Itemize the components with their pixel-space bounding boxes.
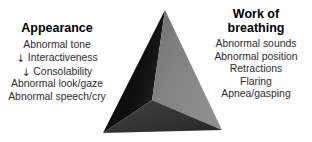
pyramid-left-face <box>103 10 165 133</box>
list-item: Flaring <box>202 76 310 89</box>
appearance-item-label: Interactiveness <box>28 52 98 63</box>
appearance-item-label: Abnormal speech/cry <box>8 91 106 102</box>
breathing-item-label: Abnormal position <box>214 51 297 62</box>
pyramid-front-face <box>103 100 222 133</box>
appearance-item-label: Abnormal tone <box>23 39 91 50</box>
appearance-item-label: Abnormal look/gaze <box>11 78 103 89</box>
down-arrow-icon: ↓ <box>16 52 25 65</box>
appearance-item-label: Consolability <box>33 66 92 77</box>
work-of-breathing-heading: Work of breathing <box>202 8 310 35</box>
work-of-breathing-list: Abnormal sounds Abnormal position Retrac… <box>202 38 310 101</box>
list-item: ↓ Consolability <box>2 65 112 79</box>
list-item: Abnormal sounds <box>202 38 310 51</box>
list-item: Abnormal position <box>202 51 310 64</box>
breathing-item-label: Retractions <box>230 63 283 74</box>
breathing-item-label: Abnormal sounds <box>216 38 297 49</box>
column-work-of-breathing: Work of breathing Abnormal sounds Abnorm… <box>202 8 310 101</box>
breathing-item-label: Apnea/gasping <box>221 88 290 99</box>
list-item: Abnormal speech/cry <box>2 91 112 104</box>
list-item: Abnormal tone <box>2 39 112 52</box>
list-item: Apnea/gasping <box>202 88 310 101</box>
diagram-canvas: Appearance Abnormal tone ↓ Interactivene… <box>0 0 312 142</box>
work-of-breathing-heading-line-1: Work of <box>202 8 310 22</box>
column-appearance: Appearance Abnormal tone ↓ Interactivene… <box>2 22 112 103</box>
appearance-list: Abnormal tone ↓ Interactiveness ↓ Consol… <box>2 39 112 104</box>
appearance-heading: Appearance <box>2 22 112 36</box>
breathing-item-label: Flaring <box>240 76 272 87</box>
list-item: ↓ Interactiveness <box>2 51 112 65</box>
list-item: Abnormal look/gaze <box>2 78 112 91</box>
down-arrow-icon: ↓ <box>22 65 31 78</box>
work-of-breathing-heading-line-2: breathing <box>202 22 310 36</box>
list-item: Retractions <box>202 63 310 76</box>
